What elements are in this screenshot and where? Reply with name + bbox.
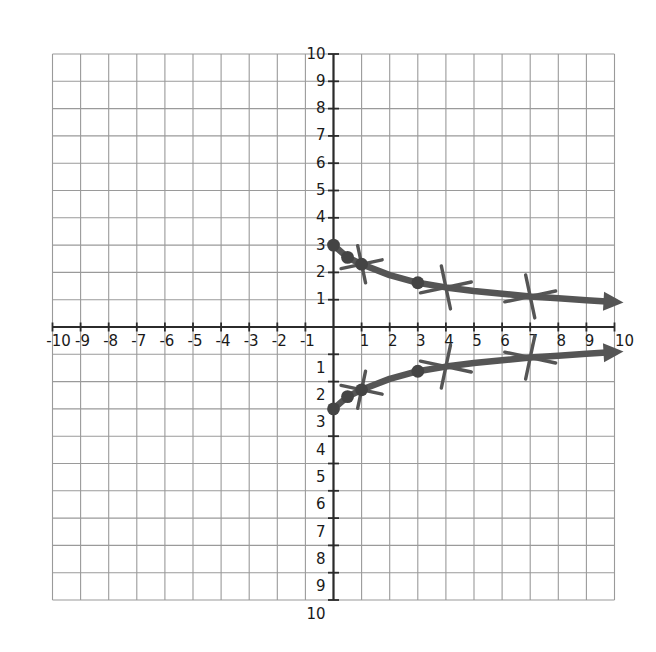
- x-tick-label: -8: [103, 332, 118, 350]
- x-tick-label: 5: [472, 332, 482, 350]
- x-tick-label: -4: [216, 332, 231, 350]
- x-tick-label: 8: [557, 332, 567, 350]
- x-tick-label: -9: [75, 332, 90, 350]
- y-tick-label: 7: [316, 523, 326, 541]
- x-tick-label: -1: [300, 332, 315, 350]
- data-point-marker: [411, 276, 424, 289]
- x-tick-label: -3: [244, 332, 259, 350]
- plot-canvas: -10-9-8-7-6-5-4-3-2-11234567891012345678…: [0, 0, 656, 652]
- y-tick-label: 10: [306, 45, 325, 63]
- data-point-marker: [341, 251, 354, 264]
- x-tick-label: -10: [46, 332, 71, 350]
- data-point-marker: [341, 390, 354, 403]
- x-tick-label: 9: [585, 332, 595, 350]
- x-tick-label: 6: [500, 332, 510, 350]
- coordinate-plot: -10-9-8-7-6-5-4-3-2-11234567891012345678…: [0, 0, 656, 652]
- y-tick-label: 9: [316, 577, 326, 595]
- x-tick-label: -7: [131, 332, 146, 350]
- y-tick-label: 10: [306, 605, 325, 623]
- x-tick-label: 1: [360, 332, 370, 350]
- y-tick-label: 2: [316, 263, 326, 281]
- x-tick-label: 3: [416, 332, 426, 350]
- x-tick-label: -6: [159, 332, 174, 350]
- data-point-marker: [327, 403, 340, 416]
- data-point-marker: [355, 383, 368, 396]
- y-tick-label: 5: [316, 181, 326, 199]
- data-point-marker: [411, 365, 424, 378]
- y-tick-label: 1: [316, 290, 326, 308]
- x-tick-label: 10: [615, 332, 634, 350]
- y-tick-label: 6: [316, 154, 326, 172]
- y-tick-label: 9: [316, 72, 326, 90]
- y-tick-label: 4: [316, 208, 326, 226]
- y-tick-label: 5: [316, 468, 326, 486]
- y-tick-label: 7: [316, 126, 326, 144]
- x-tick-label: -5: [188, 332, 203, 350]
- y-tick-label: 8: [316, 550, 326, 568]
- y-tick-label: 2: [316, 386, 326, 404]
- y-tick-label: 3: [316, 413, 326, 431]
- y-tick-label: 3: [316, 236, 326, 254]
- x-tick-label: 2: [388, 332, 398, 350]
- y-tick-label: 6: [316, 495, 326, 513]
- y-tick-label: 4: [316, 441, 326, 459]
- y-tick-label: 8: [316, 99, 326, 117]
- y-tick-label: 1: [316, 359, 326, 377]
- data-point-marker: [327, 239, 340, 252]
- data-point-marker: [355, 258, 368, 271]
- x-tick-label: -2: [272, 332, 287, 350]
